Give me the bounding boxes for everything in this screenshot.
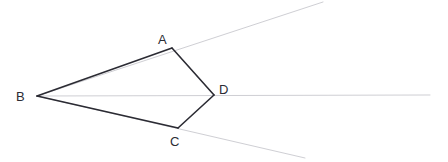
vertex-label-a: A [158,32,167,47]
ray-BD-horizontal [37,2,323,96]
segment-DC [178,95,214,128]
segment-CB [37,96,178,128]
diagram-canvas: A B C D [0,0,448,162]
vertex-label-group: A B C D [16,32,228,149]
ray-BC-extended [37,95,430,96]
segment-BA [37,48,172,96]
vertex-label-d: D [219,82,228,97]
vertex-label-c: C [170,134,179,149]
vertex-label-b: B [16,89,25,104]
segment-group [37,48,214,128]
ray-group [37,2,430,158]
geometry-diagram: A B C D [0,0,448,162]
segment-AD [172,48,214,95]
